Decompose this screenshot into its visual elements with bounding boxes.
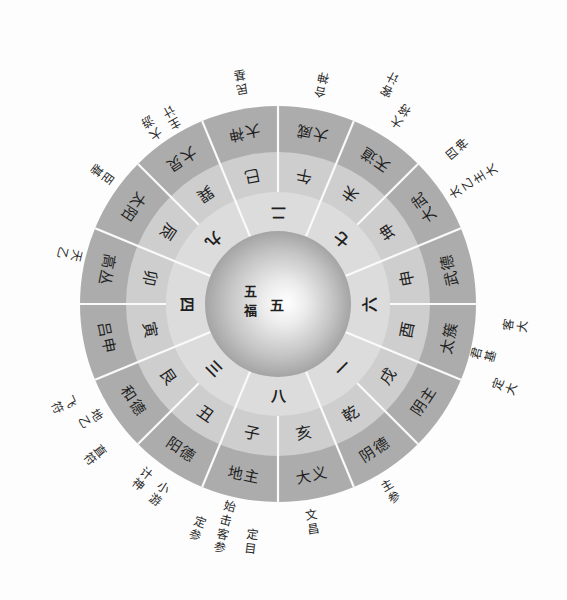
- palace-branch-label: 巳: [243, 165, 262, 184]
- annotation-label: 定目: [242, 527, 257, 556]
- palace-branch-label: 酉: [398, 320, 417, 339]
- center-label-number: 五: [270, 298, 284, 312]
- taiyi-sixteen-palace-diagram: 五福 五 二 七 六 一 八 三 四 九 午 未 坤 申 酉 戌 乾 亥 子 丑…: [0, 0, 567, 600]
- palace-branch-label: 子: [243, 424, 262, 443]
- annotation-label: 文昌: [303, 507, 319, 536]
- palace-number: 八: [271, 389, 286, 404]
- palace-branch-label: 申: [398, 269, 417, 288]
- palace-branch-label: 亥: [294, 424, 313, 443]
- palace-branch-label: 卯: [139, 269, 158, 288]
- palace-number: 二: [271, 205, 286, 220]
- palace-number: 四: [179, 297, 194, 312]
- annotation-label: 客大: [500, 320, 529, 335]
- palace-number: 六: [363, 297, 378, 312]
- center-label-wufu: 五福: [244, 285, 257, 323]
- palace-branch-label: 午: [294, 165, 313, 184]
- palace-branch-label: 寅: [139, 320, 158, 339]
